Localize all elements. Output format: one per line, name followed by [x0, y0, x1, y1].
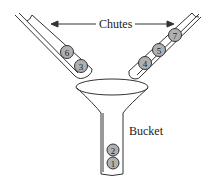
ball-7: 7 — [169, 29, 182, 42]
bucket-label: Bucket — [129, 125, 163, 137]
chutes-bucket-diagram: 6 3 4 5 7 2 — [0, 0, 224, 183]
svg-text:1: 1 — [111, 159, 116, 169]
svg-text:6: 6 — [65, 48, 70, 58]
svg-text:4: 4 — [143, 59, 148, 69]
bucket-balls: 2 1 — [107, 144, 119, 169]
ball-4: 4 — [139, 57, 152, 70]
ball-5: 5 — [153, 44, 166, 57]
chutes-label: Chutes — [99, 18, 132, 30]
ball-1: 1 — [107, 157, 119, 169]
svg-text:5: 5 — [157, 46, 162, 56]
ball-6: 6 — [61, 46, 74, 59]
ball-2: 2 — [107, 144, 119, 156]
ball-3: 3 — [75, 60, 88, 73]
right-chute — [129, 13, 201, 79]
svg-text:3: 3 — [79, 62, 84, 72]
right-chute-balls: 4 5 7 — [139, 29, 182, 70]
svg-text:7: 7 — [173, 31, 178, 41]
svg-text:2: 2 — [111, 146, 116, 156]
